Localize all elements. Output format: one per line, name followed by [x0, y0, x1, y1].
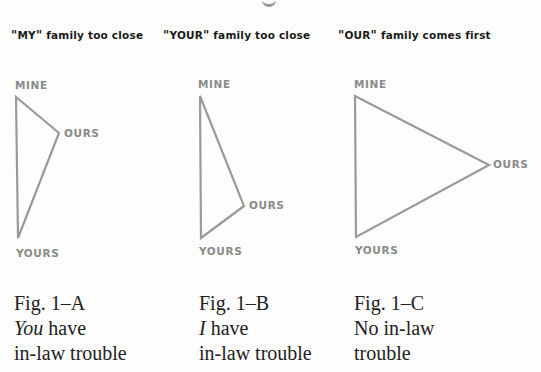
caption-line-2-rest: have [206, 317, 249, 339]
vertex-label-yours-a: YOURS [15, 247, 59, 259]
caption-emphasis: I [199, 317, 206, 339]
vertex-label-ours-c: OURS [493, 158, 529, 170]
caption-fig-b: Fig. 1–B I have in-law trouble [199, 291, 312, 366]
caption-line-3: in-law trouble [14, 341, 127, 366]
caption-line-2: You have [14, 316, 127, 341]
caption-figure-number: Fig. 1–B [199, 291, 312, 316]
caption-line-2: No in-law [354, 316, 435, 341]
caption-line-2: I have [199, 316, 312, 341]
caption-fig-c: Fig. 1–C No in-law trouble [354, 291, 435, 366]
vertex-label-yours-c: YOURS [354, 244, 398, 256]
vertex-label-yours-b: YOURS [198, 245, 242, 257]
caption-line-2-rest: have [43, 317, 86, 339]
caption-figure-number: Fig. 1–C [354, 291, 435, 316]
caption-line-2-rest: No in-law [354, 317, 435, 339]
triangle-fig-b [200, 96, 244, 238]
triangle-fig-a [16, 97, 59, 238]
triangle-fig-c [355, 96, 489, 237]
caption-fig-a: Fig. 1–A You have in-law trouble [14, 291, 127, 366]
caption-figure-number: Fig. 1–A [14, 291, 127, 316]
vertex-label-ours-a: OURS [64, 127, 100, 139]
caption-emphasis: You [14, 317, 43, 339]
vertex-label-mine-a: MINE [15, 79, 48, 91]
vertex-label-mine-c: MINE [354, 78, 387, 90]
caption-line-3: trouble [354, 341, 435, 366]
vertex-label-mine-b: MINE [198, 78, 231, 90]
vertex-label-ours-b: OURS [249, 199, 285, 211]
caption-line-3: in-law trouble [199, 341, 312, 366]
